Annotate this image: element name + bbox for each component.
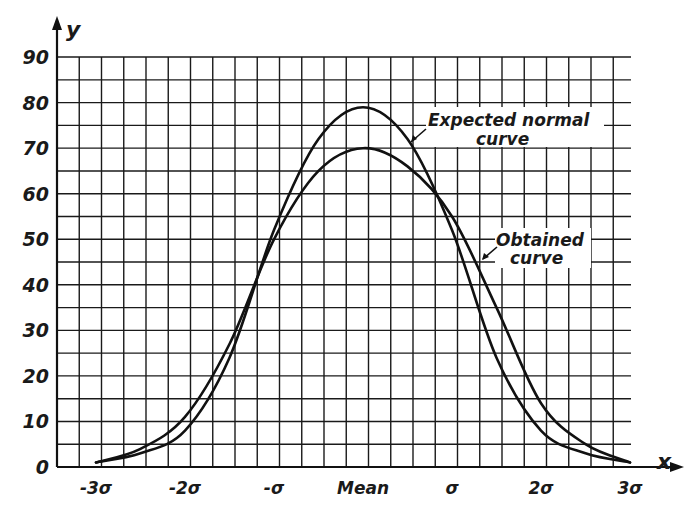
annotation-obtained-line1: Obtained <box>496 230 585 250</box>
y-axis-label: y <box>66 17 82 42</box>
y-tick-label: 30 <box>23 319 49 341</box>
y-axis-arrow-icon <box>52 16 62 30</box>
chart-canvas: 0102030405060708090 -3σ-2σ-σMeanσ2σ3σ y … <box>0 0 700 515</box>
annotation-obtained: Obtained curve <box>482 228 591 268</box>
y-tick-label: 0 <box>36 456 49 478</box>
y-tick-labels: 0102030405060708090 <box>22 46 49 478</box>
chart: 0102030405060708090 -3σ-2σ-σMeanσ2σ3σ y … <box>0 0 700 515</box>
x-tick-label: Mean <box>337 478 389 498</box>
y-tick-label: 10 <box>23 410 49 432</box>
annotation-expected-line1: Expected normal <box>428 110 590 130</box>
y-tick-label: 80 <box>23 92 49 114</box>
arrowhead-icon <box>411 135 417 142</box>
x-tick-labels: -3σ-2σ-σMeanσ2σ3σ <box>80 478 643 498</box>
x-axis-arrow-icon <box>670 462 684 472</box>
y-tick-label: 90 <box>23 46 49 68</box>
series-obtained-curve <box>96 148 630 462</box>
x-tick-label: -2σ <box>169 478 202 498</box>
x-axis-label: x <box>656 449 672 474</box>
x-tick-label: -σ <box>264 478 285 498</box>
y-tick-label: 70 <box>23 137 49 159</box>
y-tick-label: 60 <box>23 183 49 205</box>
x-tick-label: 2σ <box>528 478 554 498</box>
annotation-obtained-line2: curve <box>510 248 563 268</box>
annotation-expected-line2: curve <box>476 129 529 149</box>
y-tick-label: 50 <box>23 228 49 250</box>
annotation-expected: Expected normal curve <box>411 107 604 149</box>
x-tick-label: σ <box>445 478 459 498</box>
x-tick-label: 3σ <box>617 478 643 498</box>
y-tick-label: 40 <box>22 274 49 296</box>
x-tick-label: -3σ <box>80 478 113 498</box>
y-tick-label: 20 <box>23 365 49 387</box>
